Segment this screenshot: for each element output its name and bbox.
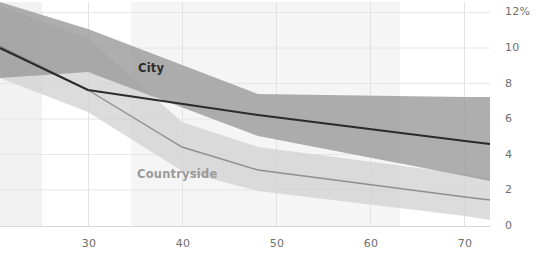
series-label-countryside: Countryside (137, 167, 217, 181)
y-axis-tick-6: 6 (505, 112, 512, 125)
x-axis-tick-40: 40 (176, 237, 191, 250)
y-axis-tick-10: 10 (505, 41, 520, 54)
y-axis-tick-4: 4 (505, 148, 512, 161)
x-axis-tick-50: 50 (270, 237, 285, 250)
chart-container: City Countryside 12% 10 8 6 4 2 0 30 40 … (0, 0, 536, 257)
x-axis-tick-30: 30 (82, 237, 97, 250)
series-label-city: City (138, 61, 164, 75)
x-axis-tick-70: 70 (458, 237, 473, 250)
y-axis-tick-12: 12% (505, 5, 530, 18)
x-axis-tick-60: 60 (364, 237, 379, 250)
chart-plot-area (0, 0, 536, 257)
y-axis-tick-0: 0 (505, 219, 512, 232)
y-axis-tick-8: 8 (505, 77, 512, 90)
y-axis-tick-2: 2 (505, 183, 512, 196)
